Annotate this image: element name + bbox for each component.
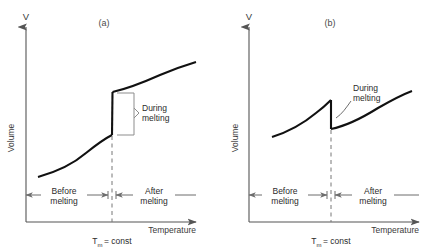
panel-a-curve-after-melting: [113, 62, 197, 92]
panel-b-y-axis-label: Volume: [230, 124, 240, 153]
panel-a-during-melting-brace: [117, 93, 134, 135]
panel-a-x-axis-label: Temperature: [148, 225, 196, 235]
panel-b-annotation-leader: [336, 101, 351, 118]
panel-b-label: (b): [325, 18, 336, 28]
panel-b-tm-label: Tm= const: [311, 236, 351, 248]
panel-b-y-axis-letter: V: [246, 11, 253, 22]
panel-a-before-melting-line2: melting: [50, 196, 78, 206]
panel-a: (a) V Volume Temperature During melting: [6, 11, 196, 248]
panel-a-annotation-line1: During: [142, 103, 167, 113]
panel-a-curve-before-melting: [38, 135, 112, 177]
panel-b: (b) V Volume Temperature During melting: [230, 11, 419, 248]
volume-temperature-figure: (a) V Volume Temperature During melting: [0, 0, 433, 251]
panel-a-after-melting-line1: After: [145, 186, 163, 196]
panel-b-tm-subscript: m: [317, 242, 322, 248]
panel-b-annotation-line2: melting: [353, 93, 381, 103]
panel-a-tm-rest: = const: [104, 236, 132, 246]
panel-b-before-melting-line2: melting: [271, 196, 299, 206]
panel-a-before-melting-line1: Before: [51, 186, 76, 196]
panel-a-tm-subscript: m: [98, 242, 103, 248]
panel-a-tm-label: Tm= const: [92, 236, 132, 248]
panel-b-x-axis-label: Temperature: [371, 225, 419, 235]
panel-b-after-melting-line1: After: [364, 186, 382, 196]
panel-b-annotation-line1: During: [353, 83, 378, 93]
panel-a-curve-during-melting: [112, 92, 113, 135]
panel-b-before-melting-line1: Before: [272, 186, 297, 196]
panel-b-curve-before-melting: [272, 100, 331, 137]
panel-a-during-melting-brace-tip: [134, 108, 139, 118]
panel-a-after-melting-line2: melting: [140, 196, 168, 206]
panel-b-after-melting-line2: melting: [359, 196, 387, 206]
panel-a-annotation-line2: melting: [142, 113, 170, 123]
panel-a-label: (a): [99, 18, 110, 28]
panel-a-y-axis-letter: V: [23, 11, 30, 22]
panel-b-tm-rest: = const: [323, 236, 351, 246]
panel-a-y-axis-label: Volume: [6, 124, 16, 153]
